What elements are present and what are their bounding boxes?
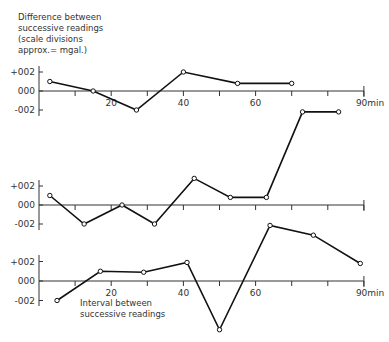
panel-top: +002000-00220406090min — [10, 66, 384, 116]
x-tick-label-90: 90min — [356, 98, 384, 108]
x-tick-label: 20 — [105, 288, 117, 298]
y-tick-label: 000 — [18, 86, 35, 96]
data-point — [268, 223, 272, 227]
data-point — [336, 110, 340, 114]
y-tick-label: 000 — [18, 200, 35, 210]
y-tick-label: -002 — [15, 219, 35, 229]
data-point — [192, 176, 196, 180]
x-tick-label: 60 — [250, 288, 262, 298]
data-point — [311, 233, 315, 237]
y-tick-label: +002 — [10, 257, 35, 267]
data-point — [141, 270, 145, 274]
data-point — [235, 81, 239, 85]
data-point — [300, 110, 304, 114]
data-point — [134, 108, 138, 112]
y-tick-label: -002 — [15, 105, 35, 115]
series-line — [57, 225, 360, 329]
x-tick-label: 60 — [250, 98, 262, 108]
series-line — [50, 112, 339, 224]
x-tick-label: 40 — [178, 288, 190, 298]
data-point — [55, 298, 59, 302]
panel-bottom: +002000-00220406090min — [10, 223, 384, 332]
data-point — [228, 195, 232, 199]
y-tick-label: +002 — [10, 181, 35, 191]
panels: +002000-00220406090min+002000-002+002000… — [10, 66, 384, 332]
y-tick-label: 000 — [18, 276, 35, 286]
data-point — [181, 70, 185, 74]
data-point — [98, 269, 102, 273]
data-point — [48, 193, 52, 197]
x-tick-label-90: 90min — [356, 288, 384, 298]
panel-middle: +002000-002 — [10, 110, 364, 230]
x-tick-label: 40 — [178, 98, 190, 108]
data-point — [48, 79, 52, 83]
y-tick-label: +002 — [10, 67, 35, 77]
data-point — [152, 222, 156, 226]
data-point — [217, 328, 221, 332]
data-point — [185, 260, 189, 264]
data-point — [290, 81, 294, 85]
y-tick-label: -002 — [15, 296, 35, 306]
chart-canvas: +002000-00220406090min+002000-002+002000… — [0, 0, 389, 342]
data-point — [264, 195, 268, 199]
data-point — [120, 203, 124, 207]
data-point — [82, 222, 86, 226]
data-point — [91, 89, 95, 93]
data-point — [358, 261, 362, 265]
